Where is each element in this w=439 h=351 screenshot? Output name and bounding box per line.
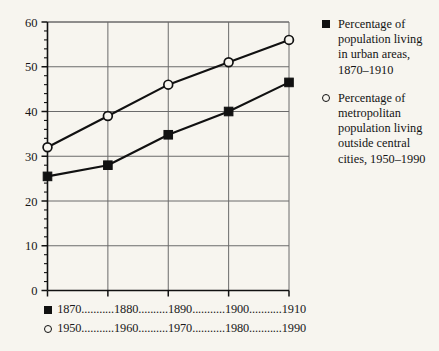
plot-area: 0102030405060	[0, 0, 310, 310]
filled-square-icon	[322, 20, 338, 28]
legend-entry-metropolitan: Percentage of metropolitan population li…	[322, 91, 434, 167]
filled-square-icon	[44, 306, 57, 314]
x-axis-label-rows: 1870...........1880..........1890.......…	[44, 300, 306, 338]
legend-label-urban: Percentage of population living in urban…	[338, 17, 434, 78]
chart-figure: 0102030405060 Percentage of population l…	[0, 0, 439, 351]
y-axis-tick-labels: 0102030405060	[25, 16, 38, 299]
chart-legend: Percentage of population living in urban…	[322, 17, 434, 180]
open-circle-icon	[44, 325, 57, 333]
x-axis-years-urban: 1870...........1880..........1890.......…	[57, 302, 306, 317]
svg-text:0: 0	[31, 284, 37, 298]
x-axis-row-metropolitan: 1950...........1960..........1970.......…	[44, 319, 306, 338]
legend-entry-urban: Percentage of population living in urban…	[322, 17, 434, 78]
svg-text:10: 10	[25, 239, 38, 253]
x-axis-years-metropolitan: 1950...........1960..........1970.......…	[57, 321, 306, 336]
svg-text:20: 20	[25, 195, 38, 209]
x-axis-row-urban: 1870...........1880..........1890.......…	[44, 300, 306, 319]
svg-text:60: 60	[25, 16, 38, 30]
x-axis-ticks	[48, 291, 290, 297]
line-chart-svg: 0102030405060	[0, 0, 310, 310]
svg-text:50: 50	[25, 60, 38, 74]
svg-text:30: 30	[25, 150, 38, 164]
svg-text:40: 40	[25, 105, 38, 119]
open-circle-icon	[322, 94, 338, 102]
y-axis-major-ticks	[42, 22, 48, 291]
legend-label-metropolitan: Percentage of metropolitan population li…	[338, 91, 434, 167]
